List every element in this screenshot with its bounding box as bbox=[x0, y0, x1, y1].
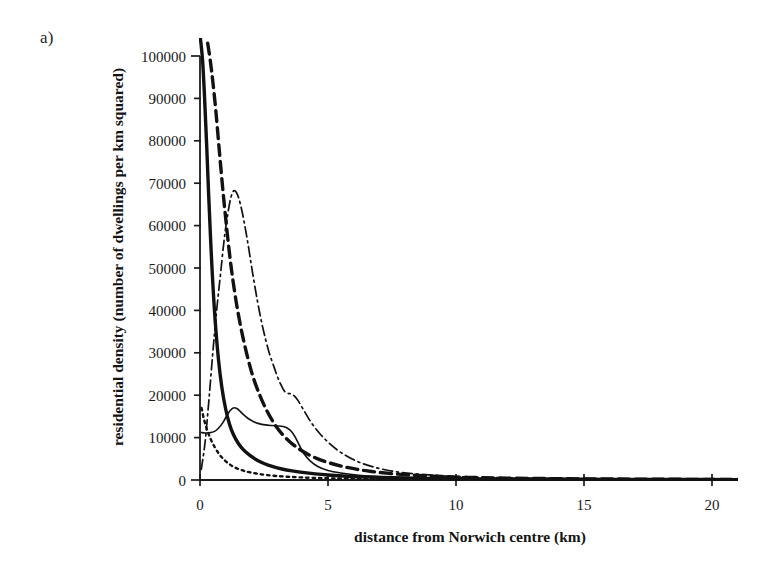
series-thick-dashed bbox=[208, 43, 738, 479]
y-axis-ticks: 0100002000030000400005000060000700008000… bbox=[141, 49, 201, 489]
x-tick-label: 15 bbox=[577, 497, 592, 513]
y-tick-label: 100000 bbox=[141, 49, 186, 65]
y-tick-label: 60000 bbox=[149, 218, 187, 234]
y-tick-label: 10000 bbox=[149, 430, 187, 446]
x-tick-label: 20 bbox=[705, 497, 720, 513]
series-thin-dash-dot bbox=[201, 191, 737, 480]
y-tick-label: 70000 bbox=[149, 176, 187, 192]
x-axis-title: distance from Norwich centre (km) bbox=[200, 528, 740, 546]
figure-panel: a) residential density (number of dwelli… bbox=[0, 0, 782, 578]
data-series-group bbox=[201, 39, 738, 480]
y-axis-title: residential density (number of dwellings… bbox=[109, 47, 127, 467]
y-tick-label: 30000 bbox=[149, 345, 187, 361]
y-tick-label: 40000 bbox=[149, 303, 187, 319]
series-thick-solid bbox=[201, 39, 738, 480]
x-tick-label: 0 bbox=[196, 497, 204, 513]
y-tick-label: 90000 bbox=[149, 91, 187, 107]
x-tick-label: 10 bbox=[449, 497, 464, 513]
axis-lines bbox=[200, 56, 737, 480]
y-tick-label: 50000 bbox=[149, 261, 187, 277]
y-tick-label: 0 bbox=[179, 473, 187, 489]
y-tick-label: 20000 bbox=[149, 388, 187, 404]
panel-label: a) bbox=[40, 28, 54, 48]
y-tick-label: 80000 bbox=[149, 133, 187, 149]
x-tick-label: 5 bbox=[324, 497, 332, 513]
